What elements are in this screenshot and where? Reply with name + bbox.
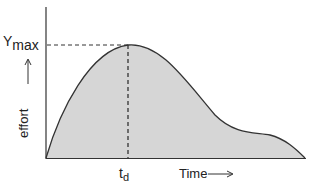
x-axis-label: Time	[179, 166, 207, 181]
effort-curve-diagram	[0, 0, 319, 189]
y-axis-label: effort	[16, 109, 31, 138]
td-label: td	[119, 165, 129, 183]
ymax-label: Ymax	[3, 33, 39, 53]
effort-area	[46, 45, 305, 158]
